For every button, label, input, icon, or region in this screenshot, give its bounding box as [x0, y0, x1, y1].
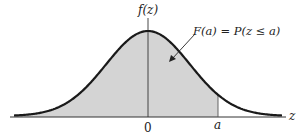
shaded-area-cdf	[14, 31, 218, 117]
tick-label-zero: 0	[144, 121, 152, 135]
y-axis-label: f(z)	[138, 3, 158, 17]
cdf-annotation: F(a) = P(z ≤ a)	[193, 24, 280, 38]
tick-label-a: a	[214, 118, 221, 132]
normal-distribution-figure	[0, 0, 301, 138]
x-axis-label: z	[289, 109, 295, 123]
